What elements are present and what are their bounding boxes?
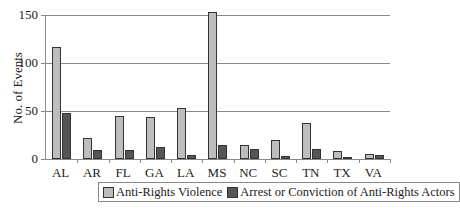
bar-arrest-ar [93,150,102,159]
bar-group-ar [77,15,108,159]
x-tick-label: FL [107,165,139,181]
bar-arrest-al [62,113,71,159]
legend-label: Arrest or Conviction of Anti-Rights Acto… [240,185,454,200]
x-tick-label: TN [295,165,327,181]
bar-violence-tn [302,123,311,159]
bar-group-tx [327,15,358,159]
bar-arrest-tn [312,149,321,159]
legend: Anti-Rights Violence Arrest or Convictio… [98,182,460,202]
x-tick-label: LA [170,165,202,181]
y-tick-label: 50 [8,104,38,117]
bar-arrest-tx [343,157,352,159]
x-tick-label: VA [357,165,389,181]
bar-violence-sc [271,140,280,159]
x-tick-label: AR [76,165,108,181]
x-tick-mark [390,159,391,163]
bar-arrest-nc [250,149,259,159]
x-tick-label: GA [138,165,170,181]
bar-group-sc [265,15,296,159]
bar-arrest-sc [281,156,290,159]
bar-group-fl [109,15,140,159]
y-tick-mark [41,159,46,160]
bar-group-va [359,15,390,159]
x-tick-mark [140,159,141,163]
bar-arrest-la [187,155,196,159]
plot-area [45,15,390,159]
y-tick-label: 150 [8,8,38,21]
x-tick-mark [109,159,110,163]
x-tick-label: AL [45,165,77,181]
bar-violence-ms [208,12,217,159]
legend-swatch-dark [227,187,238,198]
legend-item-violence: Anti-Rights Violence [103,185,222,200]
x-tick-mark [296,159,297,163]
bar-violence-ga [146,117,155,159]
bar-group-nc [234,15,265,159]
x-tick-mark [265,159,266,163]
legend-label: Anti-Rights Violence [116,185,222,200]
x-tick-mark [234,159,235,163]
bar-arrest-ms [218,145,227,159]
x-tick-mark [202,159,203,163]
x-tick-mark [327,159,328,163]
bar-arrest-fl [125,150,134,159]
bar-arrest-va [375,155,384,159]
bar-group-al [46,15,77,159]
bar-violence-ar [83,138,92,159]
bar-violence-fl [115,116,124,159]
x-tick-label: NC [232,165,264,181]
x-tick-mark [171,159,172,163]
bar-violence-tx [333,151,342,159]
y-tick-label: 0 [8,152,38,165]
bar-group-tn [296,15,327,159]
bar-violence-va [365,154,374,159]
x-tick-mark [359,159,360,163]
x-tick-label: MS [201,165,233,181]
x-tick-label: SC [264,165,296,181]
bar-violence-nc [240,145,249,159]
x-axis-line [42,159,390,160]
bar-group-ms [202,15,233,159]
legend-swatch-light [103,187,114,198]
legend-item-arrest: Arrest or Conviction of Anti-Rights Acto… [227,185,454,200]
bar-arrest-ga [156,147,165,159]
bar-violence-la [177,108,186,159]
y-tick-label: 100 [8,56,38,69]
bar-group-la [171,15,202,159]
bar-group-ga [140,15,171,159]
x-tick-mark [77,159,78,163]
x-tick-label: TX [326,165,358,181]
bar-violence-al [52,47,61,159]
